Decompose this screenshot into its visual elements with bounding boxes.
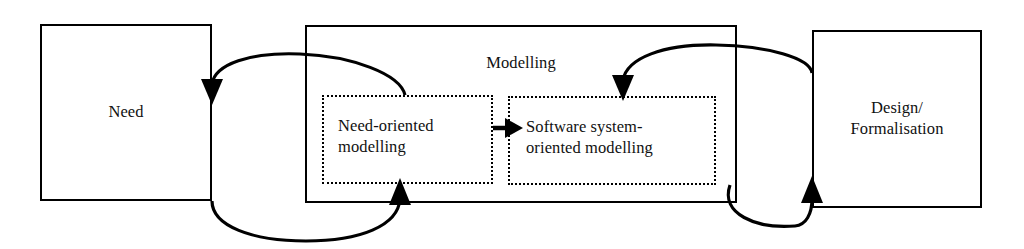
node-software-system-oriented-modelling-label: Software system- oriented modelling	[510, 117, 659, 158]
node-design-formalisation[interactable]: Design/ Formalisation	[812, 30, 982, 208]
node-need-oriented-modelling-label: Need-oriented modelling	[324, 116, 440, 157]
edge-software-system-to-design	[728, 176, 823, 226]
node-need[interactable]: Need	[40, 24, 212, 201]
edge-need-to-need-oriented-path	[212, 199, 400, 241]
node-need-label: Need	[102, 102, 149, 123]
node-modelling-label: Modelling	[480, 53, 562, 74]
node-need-oriented-modelling[interactable]: Need-oriented modelling	[322, 95, 493, 184]
node-design-formalisation-label: Design/ Formalisation	[845, 98, 950, 139]
node-software-system-oriented-modelling[interactable]: Software system- oriented modelling	[508, 96, 716, 185]
diagram-canvas: Need Modelling Need-oriented modelling S…	[0, 0, 1024, 249]
edge-software-system-to-design-path	[728, 185, 812, 226]
